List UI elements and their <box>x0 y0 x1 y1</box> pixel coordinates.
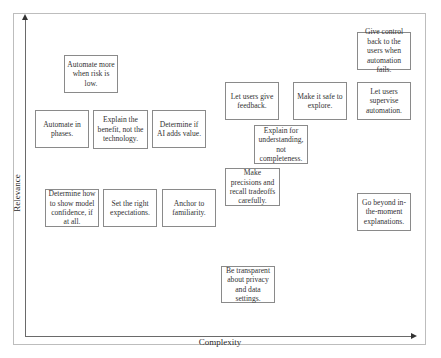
y-axis-line <box>25 17 26 336</box>
card-automate-more-low-risk: Automate more when risk is low. <box>64 55 118 93</box>
card-make-it-safe-to-explore: Make it safe to explore. <box>293 82 347 120</box>
x-axis-arrow-icon <box>411 333 417 339</box>
x-axis-label: Complexity <box>170 337 270 347</box>
card-anchor-to-familiarity: Anchor to familiarity. <box>162 189 216 227</box>
card-precision-recall-tradeoffs: Make precisions and recall tradeoffs car… <box>225 168 280 206</box>
card-go-beyond-explanations: Go beyond in-the-moment explanations. <box>357 193 411 231</box>
y-axis-arrow-icon <box>22 14 28 20</box>
y-axis-label: Relevance <box>12 168 22 218</box>
card-let-users-give-feedback: Let users give feedback. <box>225 82 279 120</box>
card-set-right-expectations: Set the right expectations. <box>103 189 157 227</box>
card-explain-benefit: Explain the benefit, not the technology. <box>93 110 148 149</box>
card-transparent-privacy: Be transparent about privacy and data se… <box>221 266 275 303</box>
card-explain-for-understanding: Explain for understanding, not completen… <box>254 125 308 164</box>
card-give-control-back: Give control back to the users when auto… <box>357 32 411 70</box>
card-automate-in-phases: Automate in phases. <box>35 110 89 148</box>
card-let-users-supervise: Let users supervise automation. <box>357 82 411 120</box>
card-determine-if-ai-adds-value: Determine if AI adds value. <box>152 110 206 148</box>
card-show-model-confidence: Determine how to show model confidence, … <box>45 189 99 227</box>
